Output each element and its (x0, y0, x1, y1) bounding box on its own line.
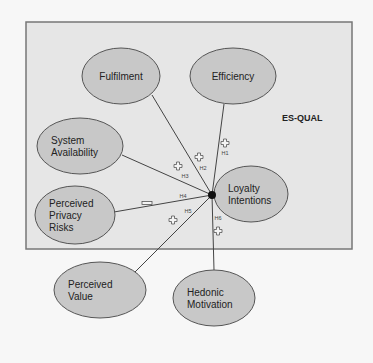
node-perceived-value: PerceivedValue (54, 262, 146, 318)
node-label: Efficiency (212, 71, 255, 82)
node-label: Availability (51, 147, 98, 158)
node-fulfilment: Fulfilment (82, 48, 160, 104)
node-efficiency: Efficiency (190, 48, 276, 104)
research-model-diagram: ES-QUAL FulfilmentEfficiencySystemAvaila… (0, 0, 373, 363)
node-loyalty-intentions: LoyaltyIntentions (214, 166, 288, 222)
node-label: Perceived (68, 279, 112, 290)
node-label: Loyalty (228, 183, 260, 194)
hypothesis-label-h3: H3 (181, 173, 188, 179)
node-label: Privacy (49, 210, 82, 221)
minus-sign-icon (142, 202, 152, 205)
hypothesis-label-h6: H6 (214, 215, 221, 221)
hub-junction-dot (208, 191, 216, 199)
hypothesis-label-h5: H5 (184, 208, 191, 214)
node-perceived-privacy-risks: PerceivedPrivacyRisks (35, 186, 115, 244)
node-label: Risks (49, 222, 73, 233)
node-label: Intentions (228, 195, 271, 206)
hypothesis-label-h1: H1 (221, 150, 228, 156)
node-label: Motivation (187, 299, 233, 310)
es-qual-label: ES-QUAL (282, 113, 323, 123)
node-label: Value (68, 291, 93, 302)
node-label: Fulfilment (99, 71, 143, 82)
hypothesis-label-h4: H4 (179, 193, 186, 199)
node-label: Perceived (49, 198, 93, 209)
node-label: Hedonic (187, 287, 224, 298)
node-hedonic-motivation: HedonicMotivation (173, 270, 255, 326)
node-label: System (51, 135, 84, 146)
hypothesis-label-h2: H2 (199, 165, 206, 171)
node-system-availability: SystemAvailability (37, 118, 123, 174)
